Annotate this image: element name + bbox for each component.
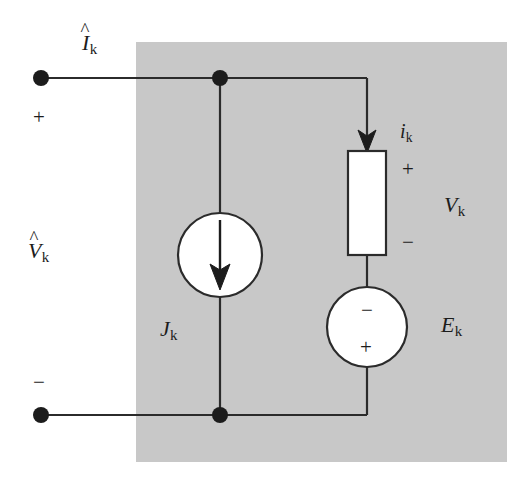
current-source-symbol-text: J [160,316,170,341]
voltage-source-subscript: k [455,323,462,339]
bottom-junction-dot [212,407,228,423]
voltage-source-minus-sign: − [361,300,373,321]
port-plus-sign: + [33,107,45,128]
top-junction-dot [212,70,228,86]
circuit-schematic-svg [0,0,529,482]
branch-current-symbol: i [400,120,406,142]
branch-current-label: ik [400,121,412,141]
element-minus-sign: − [402,232,414,253]
circuit-diagram-figure: ^Ik + ^Vk − ik + Vk − Jk Ek − + [0,0,529,482]
top-terminal-dot [33,70,49,86]
port-current-hat: ^ [81,21,90,40]
branch-voltage-symbol: V [444,192,457,217]
port-voltage-subscript: k [42,249,49,265]
current-source-subscript: k [170,327,177,343]
branch-current-subscript: k [406,130,413,145]
voltage-source-plus-sign: + [360,337,372,358]
port-voltage-label: ^Vk [28,240,49,262]
branch-voltage-label: Vk [444,194,465,216]
port-current-label: ^Ik [82,32,97,54]
voltage-source-label: Ek [441,314,462,336]
resistor-symbol [348,151,386,255]
current-source-label: Jk [160,318,177,340]
bottom-terminal-dot [33,407,49,423]
branch-voltage-subscript: k [458,203,465,219]
port-current-subscript: k [90,41,97,57]
element-plus-sign: + [402,159,414,180]
port-minus-sign: − [33,372,45,393]
port-voltage-hat: ^ [30,229,39,248]
voltage-source-symbol-text: E [441,312,454,337]
